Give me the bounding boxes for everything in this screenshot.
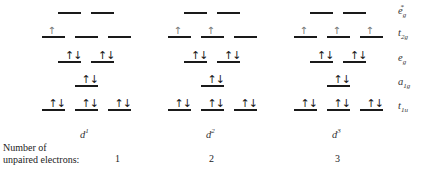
caption-unpaired-electrons: unpaired electrons: [3,154,79,166]
configuration-label-d1: d1 [80,127,89,140]
spin-up-arrow-icon: ↑ [174,25,181,36]
spin-pair-arrows-icon: ↑↓ [334,74,350,85]
unpaired-count: 1 [115,153,120,164]
orbital-label-t2g: t2g [398,27,408,41]
orbital-level-eg_star [91,12,114,14]
spin-pair-arrows-icon: ↑↓ [115,98,131,109]
spin-pair-arrows-icon: ↑↓ [98,50,114,61]
spin-pair-arrows-icon: ↑↓ [301,98,317,109]
spin-pair-arrows-icon: ↑↓ [208,74,224,85]
orbital-level-eg_star [184,12,207,14]
unpaired-count: 2 [209,153,214,164]
spin-pair-arrows-icon: ↑↓ [175,98,191,109]
spin-pair-arrows-icon: ↑↓ [367,98,383,109]
spin-pair-arrows-icon: ↑↓ [224,50,240,61]
orbital-level-t2g [108,36,131,38]
unpaired-count: 3 [335,153,340,164]
orbital-level-t2g [294,36,317,38]
spin-pair-arrows-icon: ↑↓ [49,98,65,109]
orbital-level-t2g [75,36,98,38]
spin-pair-arrows-icon: ↑↓ [191,50,207,61]
spin-pair-arrows-icon: ↑↓ [82,98,98,109]
spin-pair-arrows-icon: ↑↓ [82,74,98,85]
spin-up-arrow-icon: ↑ [366,25,373,36]
orbital-label-a1g: a1g [398,76,410,90]
orbital-level-t2g [327,36,350,38]
spin-up-arrow-icon: ↑ [333,25,340,36]
spin-pair-arrows-icon: ↑↓ [334,98,350,109]
orbital-level-t2g [360,36,383,38]
orbital-label-eg_star: eg* [398,3,404,19]
orbital-level-eg_star [217,12,240,14]
orbital-level-t2g [201,36,224,38]
spin-pair-arrows-icon: ↑↓ [317,50,333,61]
spin-pair-arrows-icon: ↑↓ [350,50,366,61]
orbital-level-eg_star [343,12,366,14]
orbital-level-eg_star [310,12,333,14]
spin-pair-arrows-icon: ↑↓ [208,98,224,109]
configuration-label-d2: d2 [206,127,215,140]
orbital-label-t1u: t1u [398,100,408,114]
configuration-label-d3: d3 [332,127,341,140]
caption-number-of: Number of [3,142,47,154]
spin-up-arrow-icon: ↑ [48,25,55,36]
mo-energy-level-diagram: Number of unpaired electrons: eg*t2gega1… [0,0,429,170]
spin-pair-arrows-icon: ↑↓ [241,98,257,109]
orbital-level-eg_star [58,12,81,14]
orbital-level-t2g [42,36,65,38]
orbital-label-eg: eg [398,52,406,66]
orbital-level-t2g [234,36,257,38]
spin-up-arrow-icon: ↑ [300,25,307,36]
orbital-level-t2g [168,36,191,38]
spin-up-arrow-icon: ↑ [207,25,214,36]
spin-pair-arrows-icon: ↑↓ [65,50,81,61]
